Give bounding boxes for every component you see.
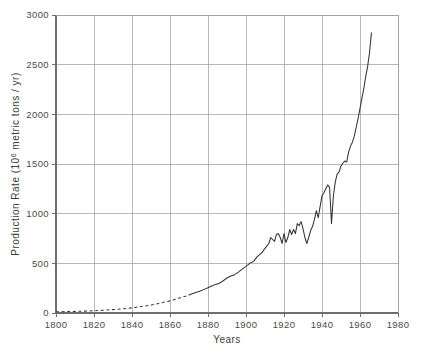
y-tick-label: 500 bbox=[32, 258, 49, 269]
y-axis-title-prefix: Production Rate (10 bbox=[10, 157, 21, 255]
y-tick-label: 3000 bbox=[26, 9, 49, 20]
x-tick-label: 1820 bbox=[83, 319, 106, 330]
chart-svg: 1800182018401860188019001920194019601980… bbox=[0, 0, 424, 357]
y-axis-title: Production Rate (106 metric tons / yr) bbox=[10, 72, 21, 256]
chart-figure: 1800182018401860188019001920194019601980… bbox=[0, 0, 424, 357]
x-tick-label: 1900 bbox=[235, 319, 258, 330]
y-tick-label: 1000 bbox=[26, 208, 49, 219]
figure-background bbox=[0, 0, 424, 357]
x-axis-title: Years bbox=[213, 334, 241, 345]
x-tick-label: 1960 bbox=[349, 319, 372, 330]
y-tick-label: 1500 bbox=[26, 158, 49, 169]
x-tick-label: 1860 bbox=[159, 319, 182, 330]
x-tick-label: 1920 bbox=[273, 319, 296, 330]
x-tick-label: 1840 bbox=[121, 319, 144, 330]
x-tick-label: 1980 bbox=[387, 319, 410, 330]
x-tick-label: 1800 bbox=[45, 319, 68, 330]
x-tick-label: 1880 bbox=[197, 319, 220, 330]
y-tick-label: 2500 bbox=[26, 59, 49, 70]
y-axis-title-suffix: metric tons / yr) bbox=[10, 72, 21, 153]
x-tick-label: 1940 bbox=[311, 319, 334, 330]
y-tick-label: 0 bbox=[43, 307, 49, 318]
y-tick-label: 2000 bbox=[26, 109, 49, 120]
